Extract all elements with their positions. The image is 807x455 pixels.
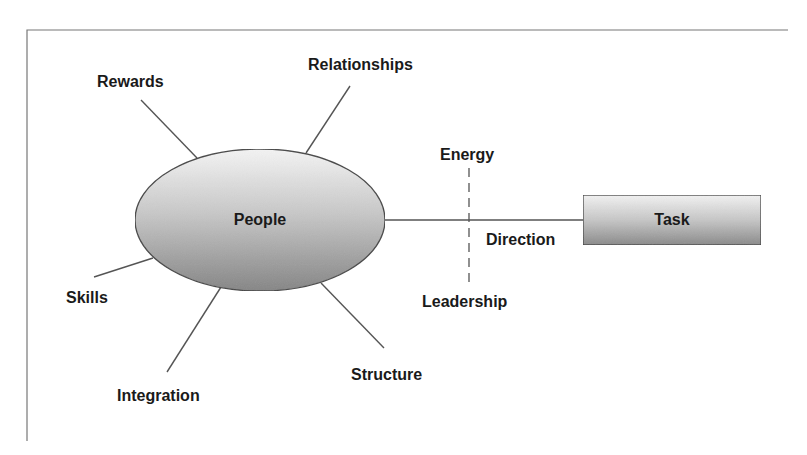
spoke-line-rewards — [141, 100, 197, 158]
spoke-label-structure: Structure — [351, 366, 422, 383]
leadership-label: Leadership — [422, 293, 508, 310]
spoke-line-skills — [94, 258, 153, 277]
direction-label: Direction — [486, 231, 555, 248]
people-task-diagram: People Task RewardsRelationshipsSkillsIn… — [0, 0, 807, 455]
spoke-label-relationships: Relationships — [308, 56, 413, 73]
spoke-line-structure — [321, 283, 384, 348]
task-label: Task — [654, 211, 689, 228]
people-label: People — [234, 211, 287, 228]
spoke-label-skills: Skills — [66, 289, 108, 306]
spoke-line-relationships — [306, 86, 350, 153]
spoke-label-rewards: Rewards — [97, 73, 164, 90]
energy-label: Energy — [440, 146, 494, 163]
spoke-label-integration: Integration — [117, 387, 200, 404]
diagram-canvas: People Task RewardsRelationshipsSkillsIn… — [0, 0, 807, 455]
spoke-line-integration — [167, 287, 221, 372]
